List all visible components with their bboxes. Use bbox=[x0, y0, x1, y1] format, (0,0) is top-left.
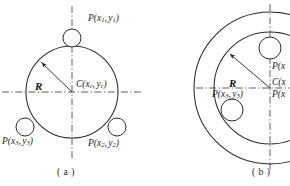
panel-a-label-center: C(xc,yc) bbox=[76, 80, 107, 90]
panel-b-radius-label: R bbox=[229, 78, 236, 89]
panel-b-caption: ( b ) bbox=[252, 168, 270, 178]
panel-b-label-center: C(x bbox=[272, 78, 287, 88]
panel-a-small-circle-p3 bbox=[16, 118, 34, 136]
figure-vector-layer bbox=[0, 0, 290, 186]
panel-b-label-p1: P(x bbox=[272, 62, 287, 72]
panel-a-radius-arrow bbox=[42, 63, 73, 93]
panel-b-small-circle-p1 bbox=[259, 37, 281, 59]
panel-a-caption: ( a ) bbox=[57, 168, 75, 178]
panel-a-radius-label: R bbox=[35, 81, 42, 92]
panel-a-label-p3: P(x3,y3) bbox=[2, 137, 33, 147]
panel-b-label-p3: P(x3,y3) bbox=[212, 90, 243, 100]
panel-a-small-circle-p2 bbox=[108, 118, 126, 136]
figure-canvas: P(x1,y1) C(xc,yc) P(x3,y3) P(x2,y2) R ( … bbox=[0, 0, 290, 186]
panel-b-small-circle-p3 bbox=[221, 99, 243, 121]
panel-a-label-p2: P(x2,y2) bbox=[88, 139, 119, 149]
panel-b-group bbox=[194, 4, 290, 172]
panel-a-small-circle-p1 bbox=[63, 29, 81, 47]
panel-a-label-p1: P(x1,y1) bbox=[88, 14, 119, 24]
panel-b-label-p2: P(x bbox=[272, 90, 287, 100]
